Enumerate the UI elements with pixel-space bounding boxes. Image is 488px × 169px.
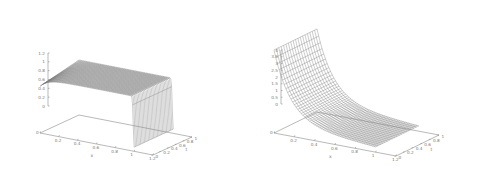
t-tick-label: 0.4 — [171, 146, 178, 151]
surface-plot-left-canvas: 00.20.40.60.811.200.20.40.60.81xt1.210.8… — [0, 0, 244, 169]
z-tick-label: 1 — [42, 59, 45, 64]
z-tick-label: 4 — [275, 48, 278, 53]
axes: 00.20.40.60.811.200.20.40.60.81xt43.532.… — [270, 48, 445, 163]
x-tick-label: 0 — [270, 130, 273, 135]
t-tick-label: 0.2 — [407, 150, 414, 155]
x-axis-label: x — [91, 153, 94, 158]
x-tick-label: 0.8 — [351, 149, 358, 154]
z-tick-label: 1 — [275, 88, 278, 93]
x-tick-label: 0.2 — [55, 138, 62, 143]
t-tick-label: 0.4 — [416, 146, 423, 151]
x-tick-label: 1 — [130, 152, 133, 157]
x-tick-label: 0.4 — [311, 142, 318, 147]
t-axis-label: t — [431, 147, 433, 152]
z-tick-label: 0.6 — [38, 77, 45, 82]
z-tick-label: 1.2 — [38, 51, 45, 56]
surface-plot-right-canvas: 00.20.40.60.811.200.20.40.60.81xt43.532.… — [244, 0, 488, 169]
z-tick-label: 0.5 — [271, 95, 278, 100]
x-axis-label: x — [329, 154, 332, 159]
surface-plot-left: 00.20.40.60.811.200.20.40.60.81xt1.210.8… — [0, 0, 244, 169]
t-tick-label: 0.2 — [163, 150, 170, 155]
t-tick-label: 0 — [156, 154, 159, 159]
x-tick-label: 0.6 — [93, 145, 100, 150]
t-tick-label: 1 — [195, 136, 198, 141]
z-tick-label: 0.4 — [38, 86, 45, 91]
z-tick-label: 2 — [275, 75, 278, 80]
z-tick-label: 0 — [275, 102, 278, 107]
x-tick-label: 0.6 — [331, 146, 338, 151]
z-tick-label: 0.2 — [38, 95, 45, 100]
z-tick-label: 0 — [42, 104, 45, 109]
axes: 00.20.40.60.811.200.20.40.60.81xt1.210.8… — [36, 51, 198, 162]
base-edge-left — [274, 112, 317, 133]
z-tick-label: 3 — [275, 61, 278, 66]
t-tick-label: 0.8 — [187, 139, 194, 144]
t-tick-label: 0.8 — [433, 138, 440, 143]
t-tick-label: 0 — [399, 155, 402, 160]
t-axis-label: t — [186, 147, 188, 152]
x-tick-label: 0.8 — [111, 149, 118, 154]
x-tick-label: 0 — [36, 130, 39, 135]
x-tick-label: 0.2 — [290, 138, 297, 143]
z-tick-label: 0.8 — [38, 68, 45, 73]
t-tick-label: 1 — [442, 134, 445, 139]
z-tick-label: 1.5 — [271, 81, 278, 86]
z-tick-label: 3.5 — [271, 54, 278, 59]
wireframe-mesh — [40, 60, 173, 147]
x-tick-label: 0.4 — [74, 141, 81, 146]
surface-plot-right: 00.20.40.60.811.200.20.40.60.81xt43.532.… — [244, 0, 488, 169]
x-tick-label: 1 — [372, 153, 375, 158]
base-edge-left — [40, 115, 79, 133]
z-tick-label: 2.5 — [271, 68, 278, 73]
wireframe-mesh — [274, 29, 419, 147]
